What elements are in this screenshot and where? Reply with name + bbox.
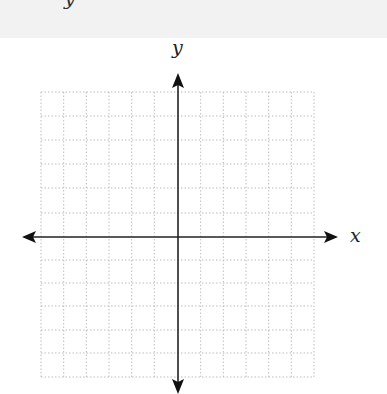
coordinate-plane (0, 0, 387, 394)
y-axis-label: y (172, 36, 183, 58)
y-axis (172, 73, 184, 394)
x-axis-label: x (350, 224, 361, 246)
x-axis (22, 231, 338, 243)
